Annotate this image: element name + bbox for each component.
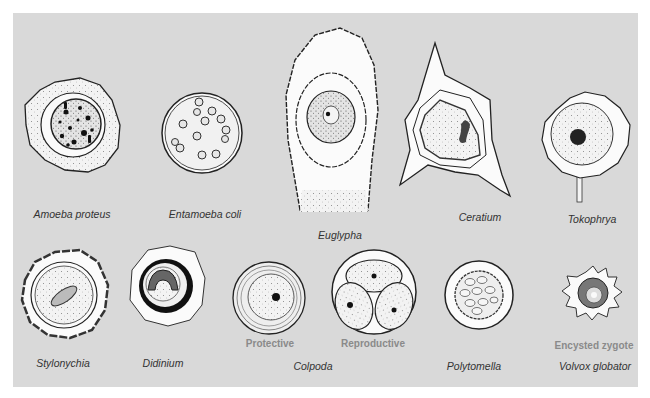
sublabel-encysted-zygote: Encysted zygote [555,340,634,351]
label-amoeba-proteus: Amoeba proteus [33,208,110,220]
label-ceratium: Ceratium [459,211,502,223]
colpoda-protective-cyst-drawing [233,262,305,334]
didinium-drawing [130,246,205,326]
label-volvox-globator: Volvox globator [559,360,631,372]
sublabel-reproductive: Reproductive [341,338,405,349]
entamoeba-coli-drawing [162,93,242,173]
volvox-globator-zygote-drawing [562,266,622,320]
sublabel-protective: Protective [246,338,294,349]
label-euglypha: Euglypha [318,229,362,241]
ceratium-drawing [400,43,510,196]
euglypha-drawing [286,28,378,212]
label-colpoda: Colpoda [293,360,332,372]
label-polytomella: Polytomella [447,360,501,372]
amoeba-proteus-drawing [25,78,120,172]
tokophrya-drawing [542,92,630,202]
label-stylonychia: Stylonychia [36,357,90,369]
label-entamoeba-coli: Entamoeba coli [169,208,241,220]
stylonychia-drawing [22,250,108,338]
protozoa-cysts-illustration [0,0,650,398]
polytomella-drawing [445,261,513,329]
label-didinium: Didinium [143,357,184,369]
colpoda-reproductive-cyst-drawing [329,250,419,335]
label-tokophrya: Tokophrya [568,213,617,225]
